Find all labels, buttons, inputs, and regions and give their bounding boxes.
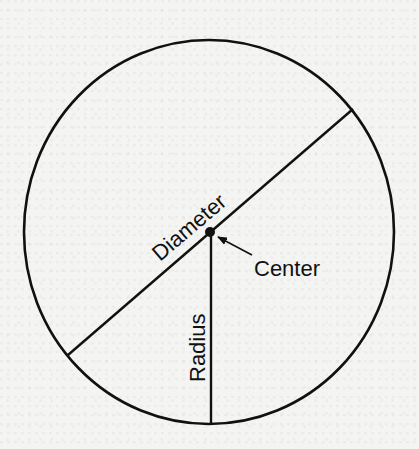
radius-label: Radius [185, 314, 210, 382]
center-label: Center [254, 256, 320, 281]
circle-diagram: Diameter Center Radius [0, 0, 419, 449]
diameter-label: Diameter [147, 189, 231, 266]
center-arrow [218, 237, 252, 255]
